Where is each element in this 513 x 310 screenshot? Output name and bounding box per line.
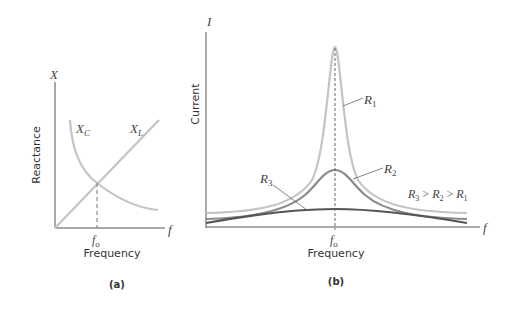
- r1-label: R1: [363, 92, 376, 109]
- inductive-reactance-line: [55, 120, 159, 228]
- r1-leader-line: [343, 98, 363, 106]
- panel-b-x-symbol: f: [483, 220, 489, 235]
- xl-label: XL: [129, 121, 143, 138]
- panel-b-caption: (b): [328, 276, 344, 287]
- r3-label: R3: [259, 171, 273, 188]
- panel-b-y-symbol: I: [206, 14, 212, 29]
- r2-label: R2: [383, 161, 396, 178]
- panel-b-x-label: Frequency: [308, 247, 365, 260]
- xc-label: XC: [75, 121, 91, 138]
- panel-a-caption: (a): [109, 279, 125, 290]
- panel-a-x-symbol: f: [168, 222, 174, 237]
- panel-a-reactance-plot: X f XC XL fo Frequency Reactance (a): [30, 67, 174, 290]
- resonance-figure: X f XC XL fo Frequency Reactance (a) I f…: [0, 0, 513, 310]
- r2-leader-line: [353, 168, 383, 179]
- panel-a-y-label: Reactance: [30, 126, 43, 184]
- panel-a-y-symbol: X: [49, 67, 59, 82]
- resistance-relation: R3 > R2 > R1: [407, 187, 468, 203]
- panel-a-x-label: Frequency: [84, 247, 141, 260]
- panel-b-current-plot: I f R1 R2 R3 R3 > R2 > R1 fo Frequency C…: [189, 14, 489, 287]
- panel-b-y-label: Current: [189, 83, 202, 125]
